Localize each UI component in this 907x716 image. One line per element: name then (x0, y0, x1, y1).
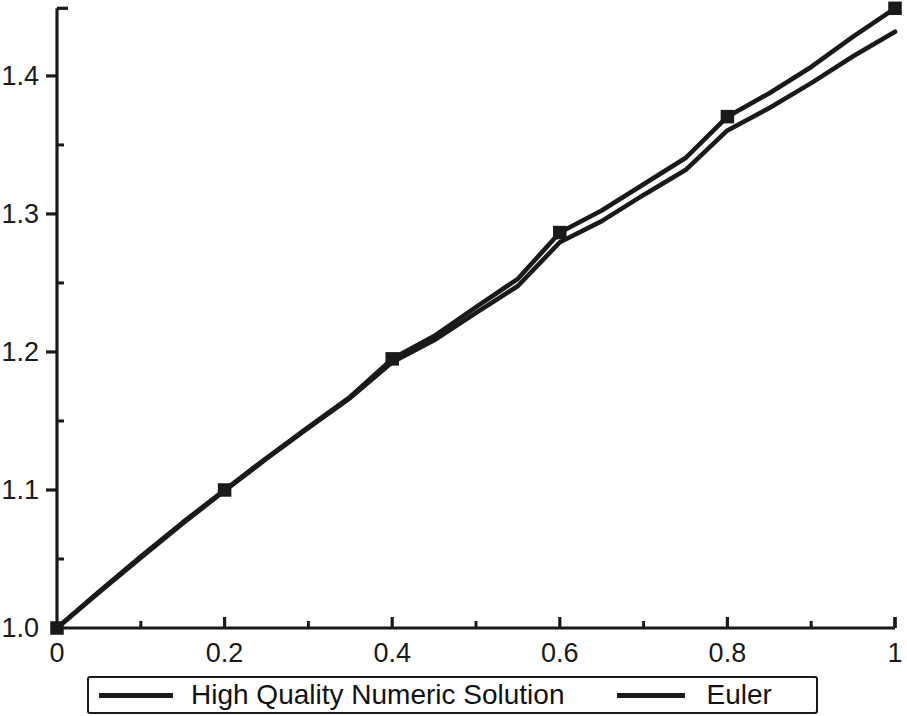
y-tick-label: 1.1 (0, 476, 39, 503)
legend-swatch-line-icon (99, 693, 173, 698)
series-marker-0 (721, 111, 733, 123)
x-tick-label: 0 (49, 640, 64, 667)
series-marker-0 (219, 484, 231, 496)
series-layer (57, 8, 895, 628)
plot-canvas (0, 0, 907, 716)
legend-entry-euler[interactable]: Euler (617, 678, 772, 712)
y-tick-label: 1.4 (0, 62, 39, 89)
marker-layer (51, 2, 901, 634)
x-tick-label: 0.4 (373, 640, 411, 667)
series-line-0 (57, 8, 895, 628)
legend-label: Euler (707, 681, 772, 709)
chart-legend: High Quality Numeric Solution Euler (87, 676, 818, 714)
x-tick-label: 0.6 (541, 640, 579, 667)
chart-figure: 1.01.11.21.31.4 00.20.40.60.81 High Qual… (0, 0, 907, 716)
series-marker-0 (889, 2, 901, 14)
y-tick-label: 1.3 (0, 200, 39, 227)
y-tick-label: 1.2 (0, 338, 39, 365)
series-line-1 (57, 32, 895, 628)
legend-swatch-line-icon (617, 693, 685, 698)
series-marker-0 (51, 622, 63, 634)
legend-entry-high-quality-numeric-solution[interactable]: High Quality Numeric Solution (99, 678, 565, 712)
series-marker-0 (554, 227, 566, 239)
x-tick-label: 1 (887, 640, 902, 667)
legend-label: High Quality Numeric Solution (191, 681, 565, 709)
y-tick-label: 1.0 (0, 615, 39, 642)
series-marker-0 (386, 353, 398, 365)
x-tick-label: 0.2 (206, 640, 244, 667)
x-tick-label: 0.8 (709, 640, 747, 667)
